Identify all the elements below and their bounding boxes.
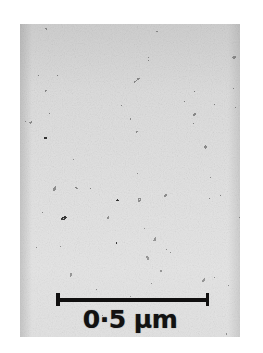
- micrograph-plate: [20, 24, 240, 337]
- clipped-running-head: [0, 0, 263, 8]
- film-grain-noise: [20, 24, 240, 337]
- scale-bar-label: 0·5 µm: [20, 305, 240, 335]
- grain-texture: [20, 24, 240, 337]
